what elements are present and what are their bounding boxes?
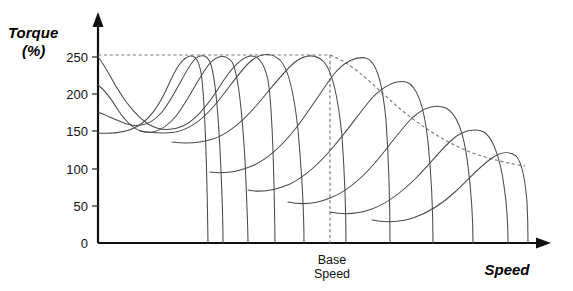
- torque-curve-3: [98, 56, 248, 243]
- y-tick-label-50: 50: [74, 199, 88, 214]
- envelope-group: [98, 55, 525, 243]
- y-axis-arrow-icon: [93, 12, 104, 27]
- base-speed-label-line1: Base: [318, 253, 347, 267]
- torque-curve-2: [98, 56, 223, 243]
- y-axis-title-line1: Torque: [8, 24, 58, 41]
- y-tick-labels: 250 200 150 100 50 0: [66, 50, 88, 251]
- torque-speed-chart: 250 200 150 100 50 0 Torque (%) Speed: [0, 0, 573, 291]
- torque-curve-8: [248, 82, 433, 243]
- y-tick-label-100: 100: [66, 162, 88, 177]
- base-speed-label-line2: Speed: [314, 267, 350, 281]
- base-speed-annotation: Base Speed: [314, 253, 350, 281]
- y-axis-title-line2: (%): [22, 42, 45, 59]
- torque-curve-9: [288, 106, 473, 243]
- torque-curve-4: [98, 56, 275, 243]
- y-tick-label-200: 200: [66, 87, 88, 102]
- torque-curve-10: [330, 130, 508, 243]
- axes-group: [93, 12, 552, 249]
- x-axis-title: Speed: [484, 261, 530, 278]
- torque-curve-6: [172, 56, 346, 243]
- torque-curve-11: [372, 153, 528, 243]
- chart-canvas: 250 200 150 100 50 0 Torque (%) Speed: [0, 0, 573, 291]
- y-tick-label-150: 150: [66, 124, 88, 139]
- y-tick-label-0: 0: [81, 236, 88, 251]
- y-tick-label-250: 250: [66, 50, 88, 65]
- x-axis-arrow-icon: [536, 238, 551, 249]
